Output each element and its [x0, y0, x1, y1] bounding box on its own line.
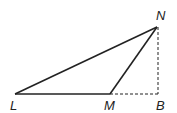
label-N: N	[156, 8, 166, 23]
triangle-diagram: N L M B	[0, 0, 177, 113]
segment-LN	[15, 27, 157, 94]
segment-MN	[110, 27, 157, 94]
label-B: B	[156, 98, 165, 113]
label-M: M	[104, 98, 115, 113]
label-L: L	[10, 98, 17, 113]
